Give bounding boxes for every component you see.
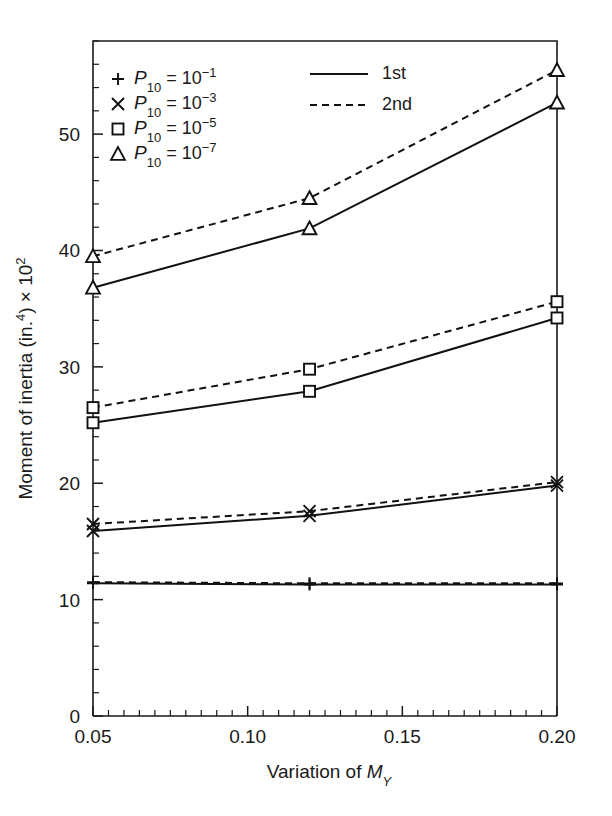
x-tick-label: 0.05	[75, 726, 112, 747]
x-axis-title: Variation of MY	[267, 761, 393, 789]
y-tick-label: 0	[69, 706, 80, 727]
y-tick-label: 50	[59, 124, 80, 145]
series-line	[93, 302, 557, 408]
data-point-marker	[550, 63, 564, 76]
data-point-marker	[87, 576, 99, 588]
x-tick-label: 0.20	[539, 726, 576, 747]
series-line	[93, 318, 557, 423]
line-chart-canvas: 010203040500.050.100.150.20Variation of …	[0, 0, 612, 816]
legend-marker	[112, 98, 124, 110]
legend-label: P10 = 10−7	[134, 140, 217, 170]
legend-style-label: 2nd	[382, 94, 412, 114]
data-point-marker	[304, 386, 315, 397]
data-point-marker	[88, 402, 99, 413]
data-point-marker	[303, 191, 317, 204]
y-tick-label: 30	[59, 357, 80, 378]
x-tick-label: 0.10	[229, 726, 266, 747]
data-point-marker	[552, 312, 563, 323]
y-tick-label: 10	[59, 590, 80, 611]
legend-marker	[113, 124, 124, 135]
series-line	[93, 482, 557, 524]
x-tick-label: 0.15	[384, 726, 421, 747]
data-point-marker	[552, 296, 563, 307]
data-point-marker	[303, 221, 317, 234]
legend-marker	[111, 147, 125, 160]
chart-figure: 010203040500.050.100.150.20Variation of …	[0, 0, 612, 816]
y-tick-label: 40	[59, 240, 80, 261]
legend-marker	[112, 73, 124, 85]
series-line	[93, 486, 557, 531]
data-point-marker	[550, 96, 564, 109]
data-point-marker	[88, 417, 99, 428]
data-point-marker	[551, 577, 563, 589]
data-point-marker	[304, 364, 315, 375]
legend-style-label: 1st	[382, 63, 406, 83]
y-axis-title: Moment of inertia (in.4) × 102	[13, 257, 37, 499]
data-point-marker	[304, 577, 316, 589]
y-tick-label: 20	[59, 473, 80, 494]
